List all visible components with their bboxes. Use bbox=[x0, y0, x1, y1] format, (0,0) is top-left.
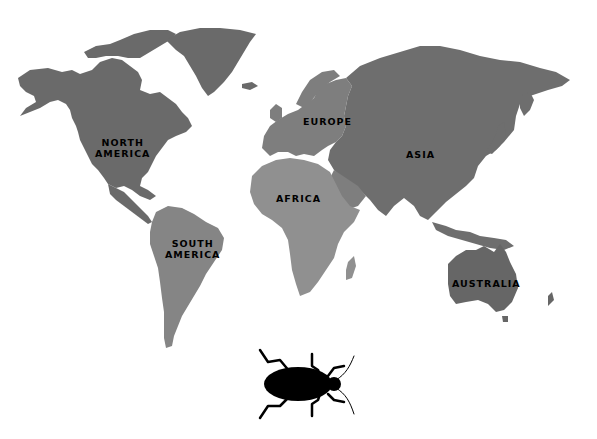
label-australia: AUSTRALIA bbox=[452, 278, 521, 289]
label-north-america-line1: NORTH bbox=[95, 137, 150, 148]
label-north-america-line2: AMERICA bbox=[95, 148, 150, 159]
beetle-icon bbox=[250, 340, 365, 430]
island-madagascar bbox=[346, 256, 356, 280]
label-south-america: SOUTH AMERICA bbox=[165, 238, 220, 260]
label-africa: AFRICA bbox=[276, 193, 321, 204]
label-south-america-line2: AMERICA bbox=[165, 249, 220, 260]
continent-arctic-islands bbox=[84, 30, 176, 58]
continent-south-america[interactable] bbox=[150, 206, 224, 348]
label-europe: EUROPE bbox=[303, 116, 352, 127]
continent-north-america[interactable] bbox=[18, 58, 192, 200]
region-kamchatka bbox=[520, 92, 534, 116]
label-asia: ASIA bbox=[406, 149, 435, 160]
label-south-america-line1: SOUTH bbox=[165, 238, 220, 249]
islands-southeast-asia bbox=[432, 222, 514, 250]
island-new-zealand bbox=[548, 292, 554, 306]
island-tasmania bbox=[502, 316, 508, 322]
label-north-america: NORTH AMERICA bbox=[95, 137, 150, 159]
island-iceland bbox=[242, 82, 258, 90]
